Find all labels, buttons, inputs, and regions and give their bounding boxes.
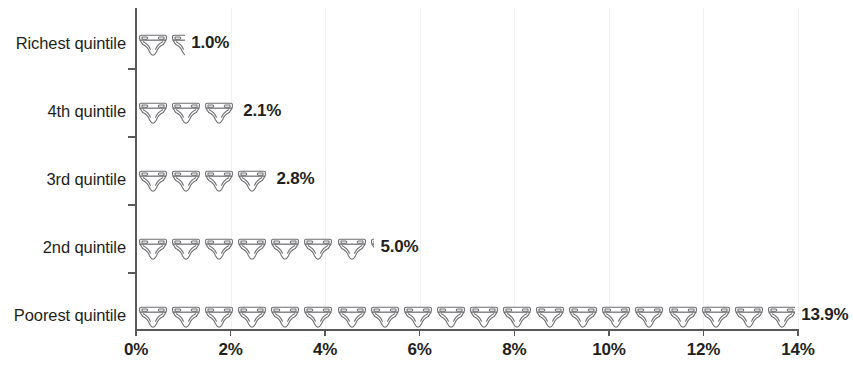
diaper-icon: [568, 300, 601, 330]
diaper-icon: [138, 300, 171, 330]
diaper-icon: [204, 300, 237, 330]
diaper-icon-partial: [370, 232, 375, 262]
pictogram-row: [138, 20, 185, 66]
pictogram-row: [138, 88, 237, 134]
diaper-icon: [138, 28, 171, 58]
diaper-icon: [634, 300, 667, 330]
diaper-icon: [601, 300, 634, 330]
pictogram-row: [138, 156, 270, 202]
x-axis-tick-label: 4%: [313, 340, 337, 360]
y-axis-tick: [128, 272, 136, 274]
diaper-icon: [138, 164, 171, 194]
x-axis-tick: [419, 329, 421, 336]
diaper-icon: [270, 300, 303, 330]
diaper-icon: [171, 300, 204, 330]
value-label: 5.0%: [380, 224, 418, 270]
diaper-icon: [370, 300, 403, 330]
category-label: 2nd quintile: [0, 238, 126, 257]
diaper-icon: [138, 232, 171, 262]
diaper-icon: [171, 96, 204, 126]
x-axis-tick-label: 2%: [218, 340, 242, 360]
diaper-icon: [171, 164, 204, 194]
x-axis-tick: [135, 329, 137, 336]
pictogram-row: [138, 292, 795, 338]
diaper-icon: [204, 96, 237, 126]
diaper-icon: [171, 232, 204, 262]
x-axis-tick: [703, 329, 705, 336]
diaper-icon: [237, 232, 270, 262]
diaper-icon: [535, 300, 568, 330]
x-axis-tick: [324, 329, 326, 336]
value-label: 1.0%: [191, 20, 229, 66]
value-label: 2.8%: [276, 156, 314, 202]
diaper-icon: [303, 232, 336, 262]
diaper-icon-partial: [767, 300, 795, 330]
diaper-icon: [502, 300, 535, 330]
diaper-icon: [701, 300, 734, 330]
pictogram-chart: Richest quintile1.0%4th quintile2.1%3rd …: [0, 0, 853, 378]
chart-row: Richest quintile1.0%: [0, 20, 853, 66]
diaper-icon: [469, 300, 502, 330]
chart-row: 4th quintile2.1%: [0, 88, 853, 134]
diaper-icon: [303, 300, 336, 330]
x-axis-tick-label: 10%: [592, 340, 625, 360]
diaper-icon: [337, 300, 370, 330]
category-label: 4th quintile: [0, 102, 126, 121]
x-axis-tick-label: 6%: [408, 340, 432, 360]
value-label: 13.9%: [801, 292, 848, 338]
x-axis-tick-label: 12%: [687, 340, 720, 360]
x-axis-tick-label: 0%: [124, 340, 148, 360]
diaper-icon: [237, 300, 270, 330]
diaper-icon: [204, 232, 237, 262]
diaper-icon: [337, 232, 370, 262]
diaper-icon: [138, 96, 171, 126]
y-axis-tick: [128, 136, 136, 138]
value-label: 2.1%: [243, 88, 281, 134]
category-label: Poorest quintile: [0, 306, 126, 325]
x-axis-tick: [514, 329, 516, 336]
diaper-icon: [668, 300, 701, 330]
category-label: Richest quintile: [0, 34, 126, 53]
diaper-icon: [270, 232, 303, 262]
diaper-icon: [734, 300, 767, 330]
diaper-icon-partial: [171, 28, 185, 58]
chart-row: 2nd quintile5.0%: [0, 224, 853, 270]
chart-row: 3rd quintile2.8%: [0, 156, 853, 202]
diaper-icon: [204, 164, 237, 194]
x-axis-tick-label: 14%: [781, 340, 814, 360]
pictogram-row: [138, 224, 374, 270]
x-axis-tick: [608, 329, 610, 336]
diaper-icon: [237, 164, 270, 194]
x-axis-tick-label: 8%: [502, 340, 526, 360]
diaper-icon: [403, 300, 436, 330]
category-label: 3rd quintile: [0, 170, 126, 189]
x-axis-tick: [230, 329, 232, 336]
chart-row: Poorest quintile13.9%: [0, 292, 853, 338]
y-axis-tick: [128, 204, 136, 206]
x-axis-tick: [797, 329, 799, 336]
diaper-icon: [436, 300, 469, 330]
y-axis-tick: [128, 68, 136, 70]
